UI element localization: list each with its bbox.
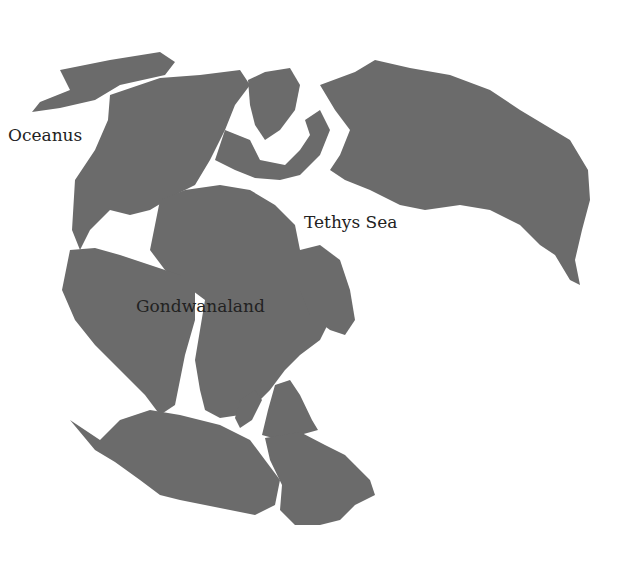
landmass-australia [265,432,375,525]
landmass-scandinavia [248,68,300,140]
pangaea-map [0,0,630,573]
label-tethys-sea: Tethys Sea [304,212,397,232]
landmass-antarctica [70,410,280,515]
landmass-asia [320,60,590,285]
label-oceanus: Oceanus [8,125,82,145]
label-gondwanaland: Gondwanaland [136,296,265,316]
